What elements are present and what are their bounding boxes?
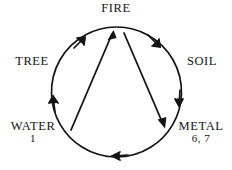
cycle-circle-arcs (51, 27, 181, 157)
cycle-circle-path (51, 27, 181, 157)
arrowhead-metal-to-water (111, 152, 129, 160)
arrowhead-fire-to-soil (148, 35, 161, 48)
node-label-water: WATER 1 (2, 120, 64, 145)
node-label-tree: TREE (6, 55, 58, 68)
node-label-soil: SOIL (176, 55, 228, 68)
node-label-soil-text: SOIL (176, 55, 228, 68)
node-label-fire: FIRE (88, 2, 144, 15)
node-label-fire-text: FIRE (88, 2, 144, 15)
node-label-tree-text: TREE (6, 55, 58, 68)
node-number-metal: 6, 7 (170, 133, 232, 145)
five-elements-diagram: FIRE TREE SOIL WATER 1 METAL 6, 7 (0, 0, 232, 170)
node-number-water: 1 (2, 133, 64, 145)
node-label-metal: METAL 6, 7 (170, 120, 232, 145)
